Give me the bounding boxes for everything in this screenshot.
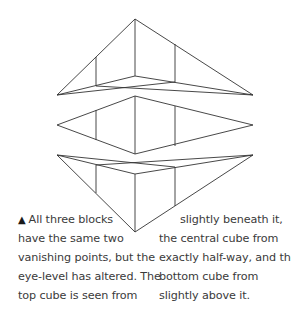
caption-line: bottom cube from xyxy=(159,267,291,286)
construction-line xyxy=(135,125,253,154)
caption-line: top cube is seen from xyxy=(18,286,161,305)
construction-line xyxy=(57,82,175,95)
caption-line: ▲All three blocks xyxy=(18,210,161,229)
caption-line: eye-level has altered. The xyxy=(18,267,161,286)
caption-line: slightly above it. xyxy=(159,286,291,305)
caption-left-column: ▲All three blocks have the same two vani… xyxy=(18,210,161,305)
caption-line: the central cube from xyxy=(159,229,291,248)
caption-line: slightly beneath it, xyxy=(159,210,291,229)
construction-line xyxy=(135,19,253,95)
construction-line xyxy=(96,155,253,165)
construction-line xyxy=(135,76,253,95)
construction-line xyxy=(96,86,253,95)
triangle-marker-icon: ▲ xyxy=(18,214,26,225)
caption-line: exactly half-way, and the xyxy=(159,248,291,267)
caption-line: vanishing points, but the xyxy=(18,248,161,267)
middle-cube xyxy=(57,96,253,154)
caption-line: have the same two xyxy=(18,229,161,248)
construction-line xyxy=(135,96,253,125)
caption-right-column: slightly beneath it, the central cube fr… xyxy=(159,210,291,305)
top-cube xyxy=(57,19,253,95)
